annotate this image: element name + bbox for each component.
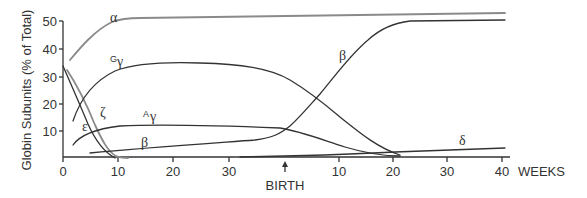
g-gamma-label: γ (116, 54, 123, 69)
x-tick-20: 20 (166, 164, 180, 179)
globin-chart: Globin Subunits (% of Total) 50 40 30 20… (0, 0, 587, 198)
y-tick-50: 50 (43, 14, 57, 29)
birth-label: BIRTH (266, 178, 305, 193)
x-tick-post-40: 40 (495, 164, 509, 179)
x-axis-title: WEEKS (518, 164, 565, 179)
up-arrow-icon (282, 161, 288, 167)
y-tick-40: 40 (43, 42, 57, 57)
x-tick-post-10: 10 (332, 164, 346, 179)
alpha-label: α (110, 10, 118, 25)
x-tick-post-20: 20 (386, 164, 400, 179)
delta-label: δ (459, 133, 466, 148)
y-axis-title: Globin Subunits (% of Total) (19, 10, 34, 171)
epsilon-label: ε (82, 119, 88, 134)
x-axis (63, 157, 510, 162)
y-tick-labels: 50 40 30 20 10 (43, 14, 57, 139)
a-gamma-superscript: A (143, 109, 149, 119)
x-tick-10: 10 (111, 164, 125, 179)
y-axis (59, 21, 63, 157)
a-gamma-label: γ (149, 109, 156, 124)
zeta-label: ζ (100, 105, 106, 120)
beta-curve (90, 20, 505, 153)
y-tick-20: 20 (43, 97, 57, 112)
g-gamma-superscript: G (110, 54, 117, 64)
a-gamma-curve (73, 125, 400, 156)
x-tick-post-30: 30 (440, 164, 454, 179)
birth-marker: BIRTH (266, 161, 305, 193)
y-tick-30: 30 (43, 70, 57, 85)
x-tick-0: 0 (59, 164, 66, 179)
y-tick-10: 10 (43, 124, 57, 139)
x-tick-labels: 0 10 20 30 10 20 30 40 WEEKS (59, 164, 565, 179)
beta-adult-label: β (339, 48, 346, 63)
x-tick-30: 30 (222, 164, 236, 179)
delta-curve (240, 148, 505, 157)
beta-fetal-label: β (141, 135, 148, 150)
series-labels: α ζ ε G γ A γ β β δ (82, 10, 466, 150)
